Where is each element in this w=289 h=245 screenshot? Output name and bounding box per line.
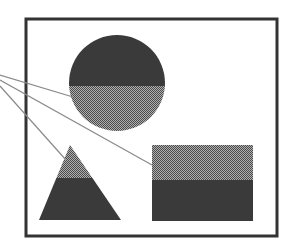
diagram-figure (0, 0, 289, 245)
rectangle-checkered-top (152, 145, 253, 180)
rectangle-dark-bottom (152, 180, 253, 221)
rectangle-shape (152, 145, 253, 221)
